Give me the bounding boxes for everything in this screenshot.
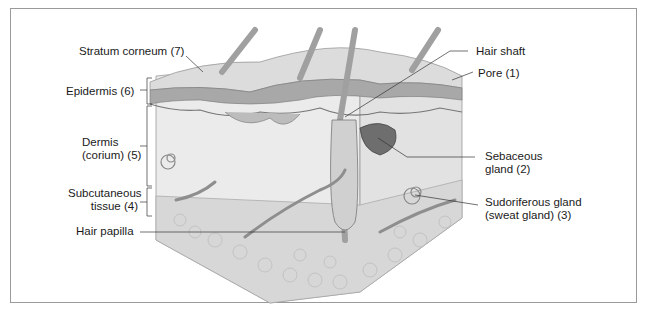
label-hair-shaft: Hair shaft: [476, 45, 525, 58]
label-subcutaneous: Subcutaneous tissue (4): [68, 187, 138, 213]
label-subcutaneous-line1: Subcutaneous: [68, 187, 138, 200]
label-sudoriferous-line2: (sweat gland) (3): [485, 209, 582, 222]
label-hair-papilla: Hair papilla: [76, 225, 134, 238]
label-sebaceous-line2: gland (2): [485, 163, 543, 176]
label-subcutaneous-line2: tissue (4): [68, 200, 138, 213]
label-sudoriferous-gland: Sudoriferous gland (sweat gland) (3): [485, 196, 582, 222]
label-stratum-corneum: Stratum corneum (7): [79, 45, 184, 58]
label-sudoriferous-line1: Sudoriferous gland: [485, 196, 582, 209]
label-dermis-line1: Dermis: [82, 136, 141, 149]
label-epidermis: Epidermis (6): [66, 85, 134, 98]
label-sebaceous-line1: Sebaceous: [485, 150, 543, 163]
label-dermis-line2: (corium) (5): [82, 149, 141, 162]
hair-follicle: [331, 120, 358, 230]
label-sebaceous-gland: Sebaceous gland (2): [485, 150, 543, 176]
label-dermis: Dermis (corium) (5): [82, 136, 141, 162]
label-pore: Pore (1): [478, 67, 520, 80]
